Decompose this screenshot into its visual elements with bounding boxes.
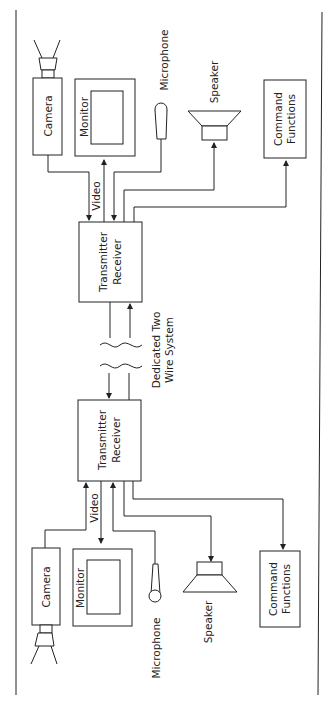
monitor-label: Monitor <box>78 96 90 137</box>
command-label-2-bottom: Functions <box>280 564 292 614</box>
top-monitor: Monitor <box>75 79 135 156</box>
bottom-command-functions: Command Functions <box>260 551 300 627</box>
top-microphone: Microphone <box>155 29 170 139</box>
tx-label-1-bottom: Transmitter <box>96 409 108 471</box>
command-label-1: Command <box>272 92 284 146</box>
bottom-monitor: Monitor <box>73 549 132 626</box>
top-speaker: Speaker <box>188 60 241 140</box>
diagram-canvas: Camera Monitor Microphone Speaker Comman… <box>0 0 324 706</box>
tx-label-2-bottom: Receiver <box>110 417 122 463</box>
camera-label-bottom: Camera <box>40 566 52 607</box>
command-label-2: Functions <box>285 94 297 144</box>
right-border <box>318 12 322 695</box>
command-label-1-bottom: Command <box>267 562 279 616</box>
top-camera: Camera <box>33 40 62 155</box>
microphone-label-bottom: Microphone <box>150 617 162 678</box>
microphone-label: Microphone <box>158 29 170 90</box>
video-label-bottom: Video <box>88 493 100 522</box>
tx-label-1: Transmitter <box>97 231 109 293</box>
bottom-microphone: Microphone <box>149 564 162 679</box>
video-label: Video <box>90 181 102 210</box>
two-wire-link: Dedicated Two Wire System <box>100 302 175 400</box>
camera-label: Camera <box>42 95 54 136</box>
speaker-label: Speaker <box>208 60 220 103</box>
speaker-label-bottom: Speaker <box>202 600 214 643</box>
bottom-camera: Camera <box>31 548 60 664</box>
bottom-transmitter-receiver: Transmitter Receiver <box>78 400 141 481</box>
monitor-label-bottom: Monitor <box>74 567 86 608</box>
top-transmitter-receiver: Transmitter Receiver <box>79 222 142 302</box>
bottom-speaker: Speaker <box>183 562 237 643</box>
wire-label-2: Wire System <box>163 317 175 383</box>
tx-label-2: Receiver <box>111 239 123 285</box>
wire-label-1: Dedicated Two <box>150 312 162 389</box>
top-command-functions: Command Functions <box>264 80 306 158</box>
